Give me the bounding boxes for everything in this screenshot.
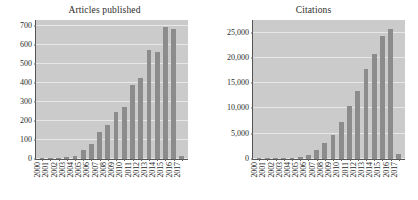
y-axis-tick-label: 15,000	[227, 79, 253, 87]
bar[interactable]	[339, 122, 344, 159]
chart-title-articles-published: Articles published	[0, 4, 209, 16]
bar-slot[interactable]	[304, 20, 312, 159]
plot-wrap-citations: 05,00010,00015,00020,00025,000 200020012…	[253, 20, 405, 159]
bar-slot[interactable]	[104, 20, 112, 159]
x-axis-tick-label: 2010	[116, 162, 124, 178]
bar[interactable]	[322, 143, 327, 159]
y-axis-tick-mark	[34, 63, 36, 64]
y-axis-tick-mark	[251, 133, 253, 134]
bar-slot[interactable]	[63, 20, 71, 159]
y-axis-tick-mark	[251, 108, 253, 109]
bar[interactable]	[314, 150, 319, 159]
bar-slot[interactable]	[329, 20, 337, 159]
bar-slot[interactable]	[128, 20, 136, 159]
bar[interactable]	[155, 52, 160, 159]
bar[interactable]	[355, 91, 360, 159]
bar[interactable]	[138, 78, 143, 159]
chart-panel-citations: Citations 05,00010,00015,00020,00025,000…	[209, 0, 418, 200]
bar-slot[interactable]	[362, 20, 370, 159]
y-axis-tick-mark	[34, 82, 36, 83]
bar[interactable]	[380, 36, 385, 159]
x-axis-tick-mark	[341, 159, 342, 161]
y-axis-tick-mark	[34, 120, 36, 121]
bar[interactable]	[171, 29, 176, 159]
bar[interactable]	[364, 69, 369, 159]
bar-slot[interactable]	[280, 20, 288, 159]
bar-slot[interactable]	[71, 20, 79, 159]
plot-area-articles-published	[36, 20, 188, 159]
bar-slot[interactable]	[288, 20, 296, 159]
x-axis-tick-label: 2017	[391, 162, 399, 178]
y-axis-tick-mark	[251, 57, 253, 58]
bar-slot[interactable]	[46, 20, 54, 159]
y-axis-tick-label: 5,000	[231, 130, 253, 138]
bar-slot[interactable]	[263, 20, 271, 159]
bar-slot[interactable]	[395, 20, 403, 159]
bar[interactable]	[163, 27, 168, 159]
bar-slot[interactable]	[54, 20, 62, 159]
bar-slot[interactable]	[370, 20, 378, 159]
bar-slot[interactable]	[296, 20, 304, 159]
bar-slot[interactable]	[255, 20, 263, 159]
chart-panel-articles-published: Articles published 010020030040050060070…	[0, 0, 209, 200]
chart-title-citations: Citations	[209, 4, 418, 16]
bar-slot[interactable]	[112, 20, 120, 159]
x-axis-tick-mark	[124, 159, 125, 161]
bar-slot[interactable]	[161, 20, 169, 159]
x-axis-label-slot: 2017	[178, 159, 186, 199]
bar-slot[interactable]	[120, 20, 128, 159]
bar[interactable]	[105, 125, 110, 159]
y-axis-tick-label: 20,000	[227, 54, 253, 62]
bar[interactable]	[331, 135, 336, 159]
bar[interactable]	[147, 50, 152, 159]
bar-slot[interactable]	[271, 20, 279, 159]
bar[interactable]	[347, 106, 352, 159]
plot-area-citations	[253, 20, 405, 159]
x-axis-labels-citations: 2000200120022003200420052006200720082009…	[253, 159, 405, 199]
bar-slot[interactable]	[153, 20, 161, 159]
bar-slot[interactable]	[387, 20, 395, 159]
y-axis-tick-label: 25,000	[227, 29, 253, 37]
plot-wrap-articles-published: 0100200300400500600700 20002001200220032…	[36, 20, 188, 159]
x-axis-tick-label: 2017	[174, 162, 182, 178]
y-axis-tick-mark	[251, 83, 253, 84]
bar-series-citations	[253, 20, 405, 159]
y-axis-tick-mark	[251, 32, 253, 33]
bar-slot[interactable]	[145, 20, 153, 159]
x-axis-label-slot: 2017	[395, 159, 403, 199]
bar-slot[interactable]	[321, 20, 329, 159]
bar[interactable]	[388, 29, 393, 159]
bar-slot[interactable]	[354, 20, 362, 159]
y-axis-tick-mark	[34, 44, 36, 45]
bar[interactable]	[372, 54, 377, 159]
bar-slot[interactable]	[345, 20, 353, 159]
y-axis-tick-mark	[34, 139, 36, 140]
y-axis-tick-mark	[34, 25, 36, 26]
figure-container: Articles published 010020030040050060070…	[0, 0, 418, 200]
y-axis-tick-label: 10,000	[227, 104, 253, 112]
bar-slot[interactable]	[313, 20, 321, 159]
bar-slot[interactable]	[378, 20, 386, 159]
y-axis-line-citations	[252, 20, 253, 159]
bar-slot[interactable]	[38, 20, 46, 159]
x-axis-labels-articles-published: 2000200120022003200420052006200720082009…	[36, 159, 188, 199]
bar-slot[interactable]	[96, 20, 104, 159]
bar[interactable]	[130, 85, 135, 159]
bar[interactable]	[89, 144, 94, 159]
bar[interactable]	[97, 132, 102, 159]
bar-slot[interactable]	[178, 20, 186, 159]
bar[interactable]	[81, 150, 86, 159]
bar[interactable]	[122, 107, 127, 159]
x-axis-tick-label: 2010	[333, 162, 341, 178]
bar-slot[interactable]	[137, 20, 145, 159]
bar-series-articles-published	[36, 20, 188, 159]
bar-slot[interactable]	[337, 20, 345, 159]
bar[interactable]	[114, 112, 119, 159]
bar-slot[interactable]	[87, 20, 95, 159]
bar-slot[interactable]	[170, 20, 178, 159]
y-axis-tick-mark	[34, 101, 36, 102]
bar-slot[interactable]	[79, 20, 87, 159]
